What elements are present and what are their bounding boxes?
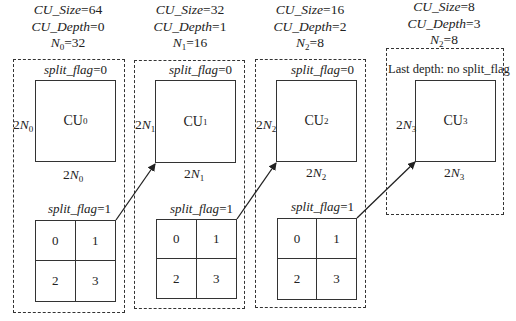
transition-arrows xyxy=(0,0,516,321)
arrow-level0-to-level1 xyxy=(116,164,155,220)
arrow-level1-to-level2 xyxy=(237,163,276,219)
arrow-level2-to-level3 xyxy=(357,162,415,218)
